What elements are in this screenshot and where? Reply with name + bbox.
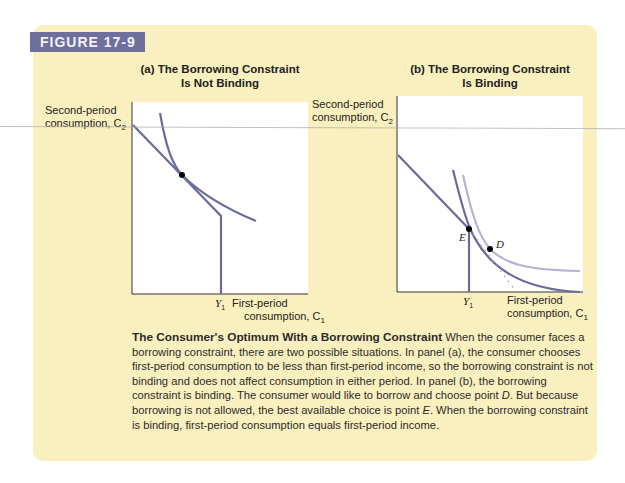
panel-a-x-label-line2: consumption, C — [244, 310, 320, 322]
panel-a-y-axis-label: Second-period consumption, C2 — [45, 104, 126, 134]
panel-b-point-d — [487, 246, 493, 252]
panel-b-y-axis-label: Second-period consumption, C2 — [312, 98, 393, 128]
caption-point-d: D — [502, 389, 510, 401]
panel-b-title-line2: Is Binding — [400, 76, 580, 90]
panel-a-x-label-line1: First-period — [232, 297, 325, 310]
panel-b-y-label-sub: 2 — [388, 117, 392, 126]
panel-b-x-label-line2: consumption, C — [507, 307, 583, 319]
panel-b-x-tick-y1: Y1 — [463, 295, 473, 312]
caption-title: The Consumer's Optimum With a Borrowing … — [132, 330, 442, 344]
figure-label: FIGURE 17-9 — [30, 32, 145, 52]
panel-a-y-label-sub: 2 — [121, 123, 125, 132]
panel-a-chart-svg — [132, 102, 308, 294]
panel-a-plot — [132, 102, 308, 294]
panel-a-budget-constraint — [133, 125, 221, 294]
panel-a-x-axis-label: First-period consumption, C1 — [232, 297, 325, 327]
panel-a-x-tick-y1: Y1 — [215, 297, 225, 314]
panel-a-x-label-sub: 1 — [320, 316, 324, 325]
panel-a-x-tick-sub: 1 — [221, 304, 225, 311]
panel-a-optimum-point — [179, 172, 185, 178]
panel-b-x-label-sub: 1 — [583, 313, 587, 322]
figure-caption: The Consumer's Optimum With a Borrowing … — [132, 330, 594, 432]
panel-b-label-d: D — [496, 238, 504, 251]
panel-a-y-label-line1: Second-period — [45, 104, 126, 117]
panel-b-indifference-curve-light — [463, 175, 580, 271]
panel-b-indifference-curve-dark — [453, 170, 580, 292]
panel-b-y-label-line2: consumption, C — [312, 111, 388, 123]
panel-b-chart-svg — [397, 96, 583, 292]
panel-b-x-label-line1: First-period — [507, 294, 588, 307]
panel-b-title: (b) The Borrowing Constraint Is Binding — [400, 62, 580, 90]
panel-b-point-e — [466, 226, 472, 232]
panel-a-title-line1: (a) The Borrowing Constraint — [130, 62, 310, 76]
caption-point-e: E — [422, 404, 429, 416]
panel-b-budget-constraint — [398, 155, 469, 292]
panel-b-label-d-text: D — [496, 238, 504, 250]
panel-b-title-line1: (b) The Borrowing Constraint — [400, 62, 580, 76]
panel-b-x-axis-label: First-period consumption, C1 — [507, 294, 588, 324]
panel-b-label-e: E — [459, 231, 466, 244]
panel-a-title-line2: Is Not Binding — [130, 76, 310, 90]
panel-b-label-e-text: E — [459, 231, 466, 243]
panel-b-plot — [397, 96, 583, 292]
panel-a-title: (a) The Borrowing Constraint Is Not Bind… — [130, 62, 310, 90]
panel-b-x-tick-sub: 1 — [469, 302, 473, 309]
panel-b-y-label-line1: Second-period — [312, 98, 393, 111]
